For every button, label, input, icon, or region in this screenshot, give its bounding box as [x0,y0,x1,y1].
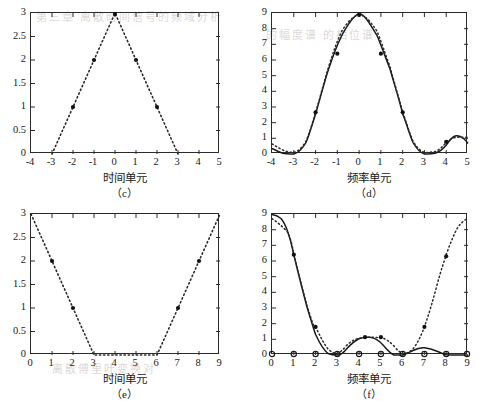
panel-f-xtick-4: 4 [355,358,360,369]
panel-f-xtick-9: 9 [464,358,469,369]
panel-f-xtick-6: 6 [399,358,404,369]
panel-f-ytick-5: 5 [245,270,267,281]
panel-f-ytick-0: 0 [245,349,267,360]
figure-root: 第三章 离散时间信号的频域分析 的幅度谱 的相位谱 离散傅里叶变换对 [0,0,481,401]
panel-f-xtick-3: 3 [334,358,339,369]
panel-f-ytick-8: 8 [245,223,267,234]
panel-f-xtick-2: 2 [312,358,317,369]
panel-f-xtick-0: 0 [268,358,273,369]
panel-f-xaxis-label: 频率单元 [271,370,467,386]
panel-f-xtick-1: 1 [290,358,295,369]
panel-f-ytick-6: 6 [245,255,267,266]
panel-f-ytick-7: 7 [245,239,267,250]
panel-f-ytick-2: 2 [245,317,267,328]
panel-f-curves [272,214,468,355]
panel-f-plot-area [271,213,467,354]
panel-f-ytick-4: 4 [245,286,267,297]
panel-f-xtick-7: 7 [421,358,426,369]
panel-f-xtick-8: 8 [443,358,448,369]
panel-f-xtick-5: 5 [377,358,382,369]
panel-f: 0 1 2 3 4 5 6 7 8 9 0 1 2 3 4 5 6 7 8 9 … [0,0,481,401]
panel-f-caption: （f） [271,385,467,401]
panel-f-ytick-9: 9 [245,208,267,219]
panel-f-ytick-3: 3 [245,302,267,313]
panel-f-ytick-1: 1 [245,333,267,344]
